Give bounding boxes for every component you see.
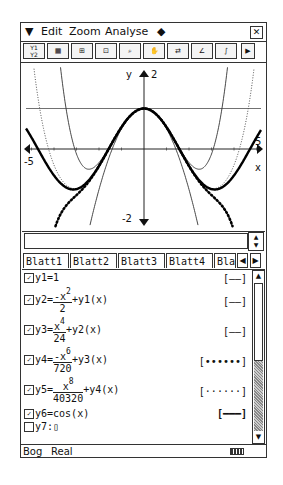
checkbox-checked-icon[interactable]: ✓: [24, 385, 34, 395]
function-tail: +y2(x): [66, 324, 102, 335]
tab-blatt5[interactable]: Bla: [214, 253, 236, 268]
exponent: 6: [66, 347, 71, 356]
menu-edit[interactable]: Edit: [41, 23, 62, 41]
input-spinner[interactable]: ▲▼: [248, 232, 264, 251]
y-axis-label: y: [126, 69, 132, 80]
entry-input[interactable]: [24, 233, 248, 249]
table-icon[interactable]: ▦: [47, 43, 69, 59]
y-axis-down-arrow-icon[interactable]: [139, 219, 149, 226]
denominator: 2: [53, 303, 72, 314]
x-min-label: -5: [24, 156, 34, 167]
function-row-y3[interactable]: ✓y3=x424+y2(x): [24, 316, 102, 344]
y-max-label: 2: [151, 69, 157, 80]
numerator: -x: [54, 291, 66, 302]
exponent: 2: [66, 287, 71, 296]
denominator: 24: [53, 333, 66, 344]
angle-mode[interactable]: Bog: [23, 445, 42, 458]
sketch-icon[interactable]: ∠: [191, 43, 213, 59]
g-solve-icon[interactable]: ∫: [215, 43, 237, 59]
input-row: ▲▼: [22, 232, 265, 250]
scroll-down-icon[interactable]: ▼: [253, 432, 264, 443]
battery-icon: [230, 448, 244, 455]
x-axis-left-arrow-icon[interactable]: [24, 144, 30, 154]
function-cursor[interactable]: ▯: [53, 421, 59, 432]
fraction: -x6720: [53, 346, 72, 374]
denominator: 40320: [53, 393, 83, 404]
function-label: y5=: [35, 384, 53, 395]
sheet-tabs: Blatt1 Blatt2 Blatt3 Blatt4 Bla ◀ ▶: [22, 253, 265, 270]
tab-blatt4[interactable]: Blatt4: [166, 253, 213, 268]
line-style-y6[interactable]: [━━━]: [217, 408, 247, 419]
function-expr[interactable]: cos(x): [53, 408, 89, 419]
tab-blatt2[interactable]: Blatt2: [70, 253, 117, 268]
function-list: ✓y1=1 [——] ✓y2=-x22+y1(x) [——] ✓y3=x424+…: [22, 270, 251, 444]
checkbox-unchecked-icon[interactable]: [24, 422, 34, 432]
menu-zoom[interactable]: Zoom: [69, 23, 101, 41]
function-label: y7:: [35, 421, 53, 432]
exponent: 8: [69, 377, 74, 386]
menu-analyse[interactable]: Analyse: [105, 23, 148, 41]
function-row-y7[interactable]: y7:▯: [24, 421, 59, 432]
graph-editor-button[interactable]: Y1Y2: [23, 43, 45, 59]
function-row-y6[interactable]: ✓y6=cos(x): [24, 408, 89, 419]
graph-area[interactable]: y2-2-55x: [22, 63, 265, 232]
zoom-box-icon[interactable]: ⌕: [119, 43, 141, 59]
graph-plot[interactable]: y2-2-55x: [22, 63, 265, 231]
status-bar: Bog Real: [21, 444, 266, 458]
view-window-icon[interactable]: ⊞: [71, 43, 93, 59]
close-button[interactable]: ✕: [250, 26, 263, 39]
y-axis-up-arrow-icon[interactable]: [139, 70, 149, 77]
trace-icon[interactable]: ⇄: [167, 43, 189, 59]
scroll-thumb[interactable]: [254, 283, 263, 361]
function-label: y1=: [35, 272, 53, 283]
toolbar: Y1Y2 ▦ ⊞ ⊡ ⌕ ✋ ⇄ ∠ ∫ ▶: [21, 41, 266, 63]
menu-dropdown-icon[interactable]: ▼: [25, 23, 33, 41]
x-axis-label: x: [255, 162, 261, 173]
fraction: x840320: [53, 376, 83, 404]
function-tail: +y4(x): [83, 384, 119, 395]
tab-scroll-right-icon[interactable]: ▶: [250, 253, 261, 268]
number-mode[interactable]: Real: [51, 445, 73, 458]
pan-icon[interactable]: ✋: [143, 43, 165, 59]
line-style-y4[interactable]: [••••••]: [199, 356, 247, 367]
function-expr[interactable]: 1: [53, 272, 59, 283]
function-row-y1[interactable]: ✓y1=1: [24, 272, 59, 283]
diamond-menu-icon[interactable]: ◆: [157, 23, 165, 41]
checkbox-checked-icon[interactable]: ✓: [24, 295, 34, 305]
line-style-y3[interactable]: [——]: [223, 326, 247, 337]
function-tail: +y1(x): [72, 294, 108, 305]
line-style-y2[interactable]: [——]: [223, 296, 247, 307]
quick-zoom-icon[interactable]: ⊡: [95, 43, 117, 59]
function-label: y3=: [35, 324, 53, 335]
denominator: 720: [53, 363, 72, 374]
tab-blatt1[interactable]: Blatt1: [23, 253, 69, 268]
scroll-up-icon[interactable]: ▲: [253, 271, 264, 282]
checkbox-checked-icon[interactable]: ✓: [24, 355, 34, 365]
function-tail: +y3(x): [72, 354, 108, 365]
tab-blatt3[interactable]: Blatt3: [118, 253, 165, 268]
checkbox-checked-icon[interactable]: ✓: [24, 325, 34, 335]
tab-scroll-left-icon[interactable]: ◀: [237, 253, 248, 268]
y-min-label: -2: [122, 213, 132, 224]
function-row-y4[interactable]: ✓y4=-x6720+y3(x): [24, 346, 108, 374]
function-label: y2=: [35, 294, 53, 305]
function-row-y2[interactable]: ✓y2=-x22+y1(x): [24, 286, 108, 314]
exponent: 4: [60, 317, 65, 326]
list-scrollbar[interactable]: ▲ ▼: [252, 270, 265, 444]
line-style-y5[interactable]: [······]: [199, 386, 247, 397]
fraction: x424: [53, 316, 66, 344]
fraction: -x22: [53, 286, 72, 314]
function-label: y6=: [35, 408, 53, 419]
numerator: -x: [54, 351, 66, 362]
checkbox-checked-icon[interactable]: ✓: [24, 409, 34, 419]
toolbar-more-arrow-icon[interactable]: ▶: [241, 43, 255, 59]
menu-bar: ▼ Edit Zoom Analyse ◆ ✕: [21, 23, 266, 42]
checkbox-checked-icon[interactable]: ✓: [24, 273, 34, 283]
function-row-y5[interactable]: ✓y5=x840320+y4(x): [24, 376, 119, 404]
line-style-y1[interactable]: [——]: [223, 273, 247, 284]
function-label: y4=: [35, 354, 53, 365]
app-window: ▼ Edit Zoom Analyse ◆ ✕ Y1Y2 ▦ ⊞ ⊡ ⌕ ✋ ⇄…: [20, 22, 267, 458]
